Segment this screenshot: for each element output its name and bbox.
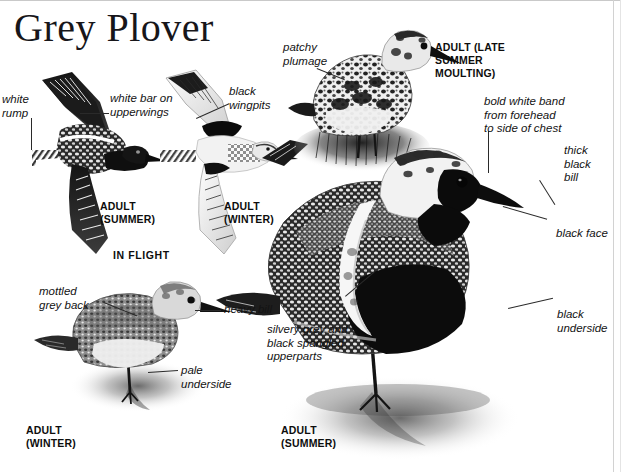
label-patchy-plumage: patchy plumage [283, 41, 327, 68]
leader-heavy-bill [195, 310, 221, 311]
label-bold-white-band: bold white band from forehead to side of… [484, 95, 565, 136]
caption-winter-standing: ADULT (WINTER) [26, 424, 76, 450]
label-black-wingpits: black wingpits [229, 85, 271, 112]
leader-white-bar [80, 113, 109, 114]
label-mottled-grey-back: mottled grey back [39, 285, 89, 312]
caption-flight-summer: ADULT (SUMMER) [100, 200, 155, 226]
illustration-layer [0, 0, 621, 472]
label-pale-underside: pale underside [181, 364, 232, 391]
label-white-bar: white bar on upperwings [110, 92, 173, 119]
label-black-underside: black underside [557, 308, 621, 335]
caption-moulting: ADULT (LATE SUMMER MOULTING) [435, 41, 505, 80]
label-heavy-bill: heavy bill [224, 303, 272, 317]
label-black-face: black face [556, 227, 608, 241]
field-guide-page: Grey Plover [0, 0, 621, 472]
leader-bold-white-band [488, 131, 489, 173]
caption-summer-standing: ADULT (SUMMER) [281, 424, 336, 450]
label-white-rump: white rump [2, 93, 29, 120]
caption-flight-winter: ADULT (WINTER) [224, 200, 274, 226]
label-thick-black-bill: thick black bill [564, 144, 591, 185]
leader-white-rump [31, 118, 32, 150]
label-silvery-upperparts: silvery grey and black spangled upperpar… [267, 323, 348, 364]
section-label-in-flight: IN FLIGHT [113, 249, 170, 262]
